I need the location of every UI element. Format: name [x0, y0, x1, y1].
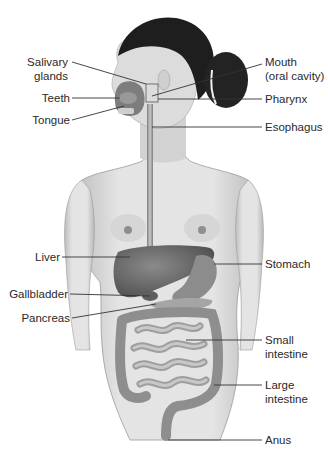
label-small-intestine-line1: Small [265, 333, 308, 347]
label-large-intestine: Large intestine [265, 378, 308, 406]
label-liver: Liver [2, 250, 60, 264]
body-silhouette [65, 17, 264, 440]
label-salivary-glands: Salivary glands [2, 55, 68, 83]
label-mouth: Mouth (oral cavity) [265, 55, 324, 83]
label-small-intestine: Small intestine [265, 333, 308, 361]
label-pancreas: Pancreas [2, 311, 70, 325]
label-stomach: Stomach [265, 257, 310, 271]
label-esophagus: Esophagus [265, 120, 323, 134]
label-mouth-line2: (oral cavity) [265, 69, 324, 83]
label-large-intestine-line2: intestine [265, 392, 308, 406]
label-gallbladder: Gallbladder [2, 287, 68, 301]
label-large-intestine-line1: Large [265, 378, 308, 392]
digestive-system-diagram: Salivary glands Teeth Tongue Liver Gallb… [0, 0, 328, 455]
label-anus: Anus [265, 433, 291, 447]
label-pharynx: Pharynx [265, 92, 307, 106]
label-salivary-line1: Salivary [2, 55, 68, 69]
label-salivary-line2: glands [2, 69, 68, 83]
label-small-intestine-line2: intestine [265, 347, 308, 361]
label-mouth-line1: Mouth [265, 55, 324, 69]
label-teeth: Teeth [2, 91, 70, 105]
label-tongue: Tongue [2, 113, 70, 127]
